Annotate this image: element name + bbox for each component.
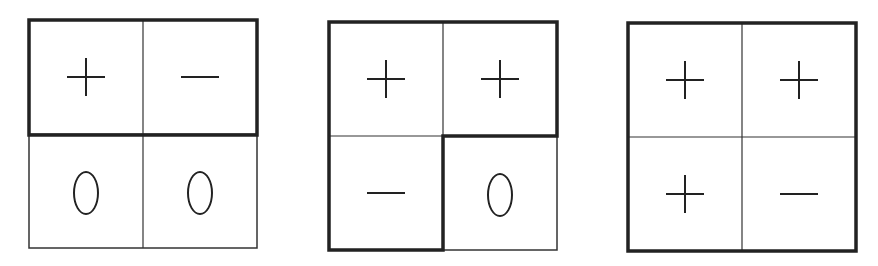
sign-grid-2 [329,22,557,250]
cell-bottom-right [742,137,856,251]
plus-sign [780,61,818,99]
cell-bottom-right [143,134,257,248]
cell-bottom-left [628,137,742,251]
cell-bottom-right [443,136,557,250]
plus-sign [67,58,105,96]
plus-sign [666,61,704,99]
plus-sign [367,60,405,98]
minus-sign [780,193,818,195]
zero-sign [187,171,213,215]
cell-top-right [443,22,557,136]
cell-top-left [628,23,742,137]
cell-top-right [742,23,856,137]
cell-top-left [29,20,143,134]
sign-grid-3 [628,23,856,251]
zero-sign [487,173,513,217]
cell-top-left [329,22,443,136]
plus-sign [666,175,704,213]
minus-sign [181,76,219,78]
cell-bottom-left [329,136,443,250]
cell-bottom-left [29,134,143,248]
zero-sign [73,171,99,215]
cell-top-right [143,20,257,134]
minus-sign [367,192,405,194]
plus-sign [481,60,519,98]
sign-grid-1 [29,20,257,248]
